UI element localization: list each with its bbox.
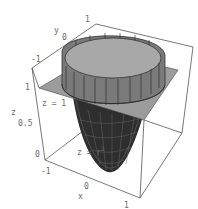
y-tick-0: 0 [62,33,67,42]
y-tick-neg1: -1 [31,55,41,64]
z-tick-0: 0 [35,150,40,159]
x-tick-0: 0 [84,182,89,191]
plane-label: z = 1 [42,99,66,108]
plot-canvas: z = 1 z = r2 y -1 0 1 z 1 0.5 0 -1 0 x 1 [0,0,198,209]
z-tick-1: 1 [25,83,30,92]
z-axis-label: z [11,108,16,117]
y-tick-1: 1 [85,15,90,24]
paraboloid-figure: z = 1 z = r2 y -1 0 1 z 1 0.5 0 -1 0 x 1 [0,0,198,209]
x-tick-neg1: -1 [41,167,51,176]
x-axis-label: x [78,192,83,201]
z-tick-05: 0.5 [18,119,33,128]
x-tick-1: 1 [124,201,129,209]
y-axis-label: y [54,26,59,35]
cylinder-wall [62,33,165,105]
